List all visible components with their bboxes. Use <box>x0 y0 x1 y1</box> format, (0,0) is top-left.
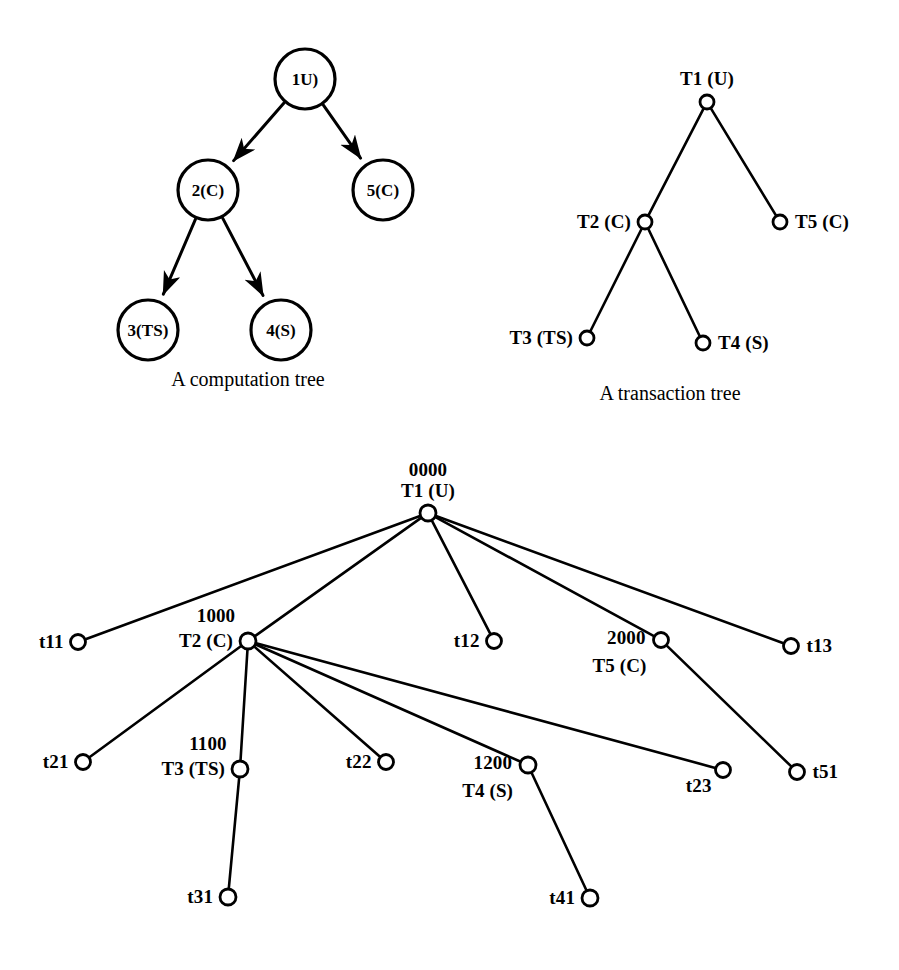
node-label-t3: T3 (TS) <box>509 328 573 349</box>
tree-node-b_t2 <box>240 633 256 649</box>
tree-node-b_t23 <box>716 763 731 778</box>
node-label-b_t3: T3 (TS) <box>161 759 225 780</box>
panel-caption-transaction-tree: A transaction tree <box>599 382 740 405</box>
tree-node-t5 <box>773 215 787 229</box>
tree-edge <box>163 219 195 294</box>
node-label-b_t51: t51 <box>813 762 839 783</box>
tree-edge <box>436 516 784 643</box>
tree-node-b_t1 <box>420 505 436 521</box>
tree-edge <box>223 218 263 295</box>
node-label-c5: 5(C) <box>367 182 400 200</box>
tree-edge <box>323 105 360 158</box>
tree-edge <box>648 109 703 216</box>
tree-node-b_t13 <box>784 639 799 654</box>
node-label-b_t13: t13 <box>807 636 833 657</box>
node-label-b_t23: t23 <box>686 776 712 797</box>
node-label-b_t2: T2 (C) <box>179 631 233 652</box>
node-label-t4: T4 (S) <box>718 333 769 354</box>
node-label-b_t22: t22 <box>346 752 372 773</box>
tree-node-b_t31 <box>220 889 236 905</box>
node-label-b_t41: t41 <box>549 888 575 909</box>
tree-node-t2 <box>638 215 652 229</box>
node-label-c4: 4(S) <box>266 322 296 340</box>
node-label-b_t21: t21 <box>43 752 69 773</box>
tree-node-b_t11 <box>71 635 86 650</box>
tree-edge <box>255 518 421 636</box>
node-label-t5: T5 (C) <box>795 212 849 233</box>
tree-edge <box>590 229 641 332</box>
node-label-b_t4: T4 (S) <box>462 781 513 802</box>
tree-edge <box>432 521 490 634</box>
tree-edge <box>229 777 239 888</box>
node-tag-b_t4: 1200 <box>474 753 512 774</box>
tree-node-b_t3 <box>232 761 248 777</box>
panel-caption-computation-tree: A computation tree <box>171 368 324 391</box>
tree-node-t1 <box>700 95 714 109</box>
tree-edge <box>254 647 380 757</box>
node-label-c3: 3(TS) <box>127 322 168 340</box>
node-label-c2: 2(C) <box>192 182 225 200</box>
tree-node-b_t5 <box>654 633 669 648</box>
tree-edge <box>241 649 248 760</box>
tree-node-b_t4 <box>520 757 536 773</box>
node-tag-b_t3: 1100 <box>189 734 226 755</box>
node-label-b_t31: t31 <box>187 887 213 908</box>
tree-node-b_t22 <box>379 755 394 770</box>
tree-node-b_t12 <box>487 634 502 649</box>
tree-edge <box>667 646 792 767</box>
tree-edge <box>648 229 700 336</box>
tree-node-b_t51 <box>790 765 805 780</box>
tree-edge <box>86 516 421 639</box>
node-label-b_t5: T5 (C) <box>593 656 647 677</box>
node-label-t2: T2 (C) <box>577 212 631 233</box>
tree-node-b_t41 <box>582 890 598 906</box>
node-label-c1: 1U) <box>292 71 319 89</box>
tree-edge <box>711 108 776 215</box>
node-label-b_t1: 0000T1 (U) <box>401 460 455 501</box>
node-label-t1: T1 (U) <box>680 69 734 90</box>
node-label-b_t12: t12 <box>454 631 480 652</box>
tree-node-b_t21 <box>76 755 91 770</box>
node-tag-b_t2: 1000 <box>197 606 235 627</box>
figure-root: 1U)2(C)5(C)3(TS)4(S)A computation treeT1… <box>0 0 899 970</box>
tree-node-t4 <box>696 336 710 350</box>
tree-edge <box>435 517 654 636</box>
tree-edge <box>532 773 587 891</box>
node-label-b_t11: t11 <box>39 632 64 653</box>
tree-node-t3 <box>580 331 594 345</box>
tree-edge <box>234 103 284 161</box>
node-tag-b_t5: 2000 <box>607 628 645 649</box>
